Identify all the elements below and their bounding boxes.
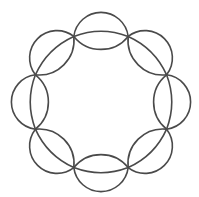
outer-arc: [30, 129, 74, 173]
inner-arc: [35, 75, 48, 129]
outer-arc: [74, 168, 128, 192]
ring-arc: [35, 129, 73, 167]
ring-arc: [128, 129, 166, 167]
outer-arc: [30, 31, 74, 75]
ring-arc: [30, 75, 35, 129]
inner-arc: [154, 75, 167, 129]
outer-arc: [128, 129, 172, 173]
lens-ring-diagram: [0, 0, 199, 197]
outer-arc: [74, 12, 128, 36]
inner-arc: [74, 155, 128, 168]
outer-arc: [167, 75, 191, 129]
ring-arc: [128, 36, 166, 74]
ring-arc: [74, 31, 128, 36]
ring-arc: [35, 36, 73, 74]
inner-arc: [35, 36, 74, 75]
inner-arc: [128, 36, 167, 75]
arc-group: [11, 12, 190, 191]
inner-arc: [128, 129, 167, 168]
inner-arc: [74, 36, 128, 49]
inner-arc: [35, 129, 74, 168]
ring-arc: [167, 75, 172, 129]
ring-arc: [74, 168, 128, 173]
outer-arc: [11, 75, 35, 129]
outer-arc: [128, 31, 172, 75]
